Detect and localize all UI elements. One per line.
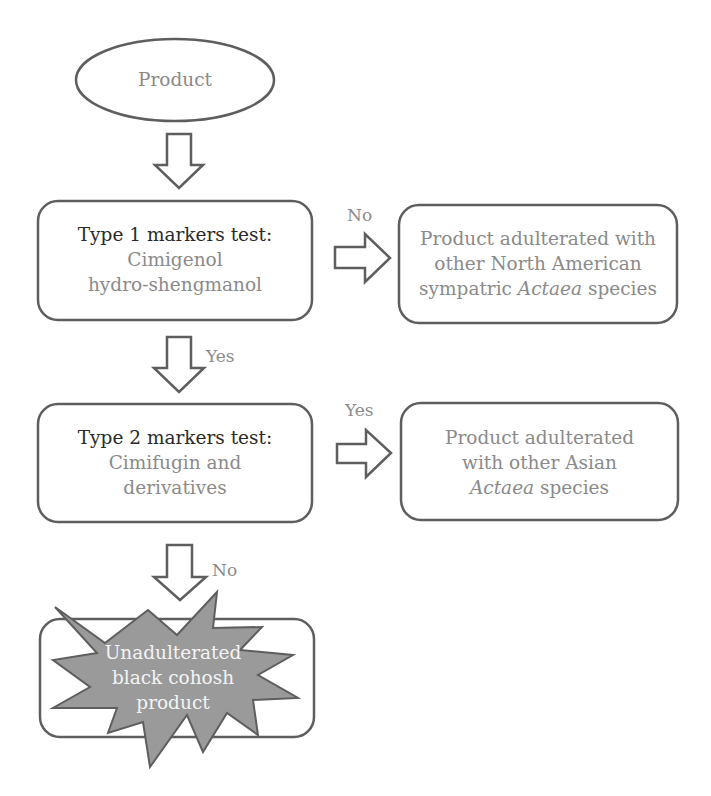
edge-label-yes: Yes — [206, 346, 235, 366]
result2-line3: Actaea species — [401, 475, 678, 500]
test1-content: Type 1 markers test: Cimigenol hydro-she… — [38, 222, 312, 297]
flowchart: Product Type 1 markers test: Cimigenol h… — [0, 0, 711, 796]
result1-line2: other North American — [399, 251, 677, 276]
result1-line3-suffix: species — [582, 278, 657, 299]
test2-line2: derivatives — [38, 475, 312, 500]
result1-line3-prefix: sympatric — [419, 278, 518, 299]
edge-label-no: No — [347, 205, 372, 225]
result2-line2: with other Asian — [401, 450, 678, 475]
test1-title: Type 1 markers test: — [38, 222, 312, 247]
arrow-right-icon — [337, 430, 391, 477]
result2-line3-suffix: species — [534, 477, 609, 498]
result1-content: Product adulterated with other North Ame… — [399, 226, 677, 301]
edge-label-yes: Yes — [345, 400, 374, 420]
result2-line1: Product adulterated — [401, 425, 678, 450]
arrow-right-icon — [335, 234, 390, 282]
genus-name: Actaea — [470, 477, 534, 498]
arrow-down-icon — [154, 545, 206, 600]
result1-line1: Product adulterated with — [399, 226, 677, 251]
start-label: Product — [76, 67, 274, 92]
arrow-down-icon — [154, 337, 204, 392]
final-content: Unadulterated black cohosh product — [78, 640, 268, 715]
test2-title: Type 2 markers test: — [38, 425, 312, 450]
final-line1: Unadulterated — [78, 640, 268, 665]
test2-line1: Cimifugin and — [38, 450, 312, 475]
genus-name: Actaea — [518, 278, 582, 299]
test1-line2: hydro-shengmanol — [38, 272, 312, 297]
arrow-down-icon — [155, 134, 203, 188]
result1-line3: sympatric Actaea species — [399, 276, 677, 301]
test2-content: Type 2 markers test: Cimifugin and deriv… — [38, 425, 312, 500]
start-text: Product — [138, 69, 212, 90]
test1-line1: Cimigenol — [38, 247, 312, 272]
edge-label-no: No — [212, 560, 237, 580]
final-line3: product — [78, 690, 268, 715]
result2-content: Product adulterated with other Asian Act… — [401, 425, 678, 500]
final-line2: black cohosh — [78, 665, 268, 690]
